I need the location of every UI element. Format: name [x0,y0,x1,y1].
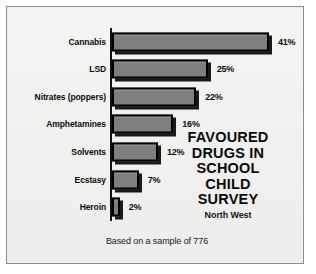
bar-value-label: 25% [217,64,234,74]
bar-body [112,170,139,189]
bar-category-label: Ecstasy [10,175,106,185]
bar-heroin [112,198,120,217]
bar-lsd [112,60,208,79]
bar-category-label: Solvents [10,147,106,157]
bar-body [112,32,269,51]
bar-category-label: Cannabis [10,37,106,47]
title-line-5: SURVEY [164,192,292,208]
bar-body [112,87,196,106]
bar-body [112,198,120,217]
bar-value-label: 16% [182,119,199,129]
bar-value-label: 2% [129,202,142,212]
title-line-2: DRUGS IN [164,146,292,162]
bar-value-label: 7% [148,175,161,185]
bar-category-label: Amphetamines [10,119,106,129]
title-line-1: FAVOURED [164,130,292,146]
bar-ecstasy [112,170,139,189]
bar-value-label: 22% [205,92,222,102]
bar-row: LSD 25% [8,56,306,83]
bar-category-label: Nitrates (poppers) [10,92,106,102]
bar-nitrates-poppers [112,87,196,106]
bar-category-label: Heroin [10,202,106,212]
figure: Cannabis 41% LSD 25% Nitrates (poppers) [0,0,316,274]
chart-title-block: FAVOURED DRUGS IN SCHOOL CHILD SURVEY No… [164,130,292,220]
bar-row: Nitrates (poppers) 22% [8,83,306,110]
bar-cannabis [112,32,269,51]
title-line-4: CHILD [164,177,292,193]
bar-value-label: 41% [278,37,295,47]
bar-row: Cannabis 41% [8,28,306,55]
figure-plate: Cannabis 41% LSD 25% Nitrates (poppers) [8,8,302,262]
bar-solvents [112,142,158,161]
chart-caption: Based on a sample of 776 [8,236,306,246]
bar-body [112,60,208,79]
chart-subtitle: North West [164,210,292,220]
figure-frame: Cannabis 41% LSD 25% Nitrates (poppers) [6,6,304,264]
bar-body [112,142,158,161]
title-line-3: SCHOOL [164,161,292,177]
bar-category-label: LSD [10,64,106,74]
